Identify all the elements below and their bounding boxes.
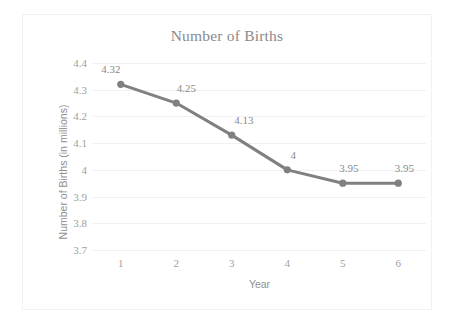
- chart-frame: Number of Births Number of Births (in mi…: [22, 14, 432, 310]
- gridline: [93, 250, 426, 251]
- plot-area: 4.44.34.24.143.93.83.7 123456 4.324.254.…: [93, 63, 426, 250]
- data-point-label: 4.13: [234, 114, 253, 126]
- y-axis-tick-label: 3.7: [73, 244, 87, 256]
- y-axis-tick-label: 4: [82, 164, 88, 176]
- y-axis-tick-label: 4.4: [73, 57, 87, 69]
- x-axis-tick-label: 3: [229, 257, 235, 269]
- x-axis-tick-label: 4: [285, 257, 291, 269]
- data-point-marker: [284, 166, 291, 173]
- y-axis-tick-label: 4.2: [73, 110, 87, 122]
- x-axis-tick-label: 5: [340, 257, 346, 269]
- y-axis-tick-label: 3.9: [73, 191, 87, 203]
- x-axis-title: Year: [93, 278, 426, 290]
- y-axis-tick-label: 4.1: [73, 137, 87, 149]
- y-axis-tick-label: 4.3: [73, 84, 87, 96]
- y-axis-title: Number of Births (in millions): [55, 77, 71, 267]
- y-axis-tick-label: 3.8: [73, 217, 87, 229]
- data-point-label: 4.25: [177, 82, 196, 94]
- data-point-label: 3.95: [395, 162, 414, 174]
- data-point-marker: [228, 132, 235, 139]
- data-point-marker: [339, 180, 346, 187]
- x-axis-tick-label: 1: [118, 257, 124, 269]
- line-series: [93, 63, 426, 250]
- x-axis-tick-label: 6: [396, 257, 402, 269]
- data-point-marker: [117, 81, 124, 88]
- data-point-label: 4: [291, 149, 297, 161]
- x-axis-tick-label: 2: [174, 257, 180, 269]
- data-point-label: 3.95: [339, 162, 358, 174]
- data-point-marker: [173, 99, 180, 106]
- chart-title: Number of Births: [23, 27, 431, 45]
- y-axis-title-label: Number of Births (in millions): [57, 105, 69, 240]
- data-point-marker: [395, 180, 402, 187]
- data-point-label: 4.32: [101, 63, 120, 75]
